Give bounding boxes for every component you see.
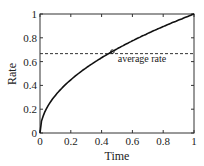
- y-tick-label: 0.6: [23, 56, 37, 68]
- x-axis-label: Time: [105, 149, 130, 163]
- y-axis-label: Rate: [5, 63, 19, 85]
- x-tick-label: 0.2: [64, 135, 78, 147]
- y-tick-label: 0.8: [23, 32, 37, 44]
- y-tick-label: 0.2: [23, 103, 37, 115]
- x-tick-label: 0: [37, 135, 43, 147]
- chart: 00.20.40.60.8100.20.40.60.81average rate…: [0, 0, 204, 166]
- rate-curve: [40, 14, 194, 133]
- average-rate-label: average rate: [118, 53, 167, 64]
- x-tick-label: 0.4: [95, 135, 109, 147]
- y-tick-label: 1: [32, 8, 38, 20]
- x-tick-label: 1: [191, 135, 197, 147]
- y-tick-label: 0.4: [23, 79, 37, 91]
- plot-frame: [40, 14, 194, 133]
- y-tick-label: 0: [32, 127, 38, 139]
- plot-area: 00.20.40.60.8100.20.40.60.81average rate: [23, 8, 197, 147]
- x-tick-label: 0.6: [126, 135, 140, 147]
- x-tick-label: 0.8: [156, 135, 170, 147]
